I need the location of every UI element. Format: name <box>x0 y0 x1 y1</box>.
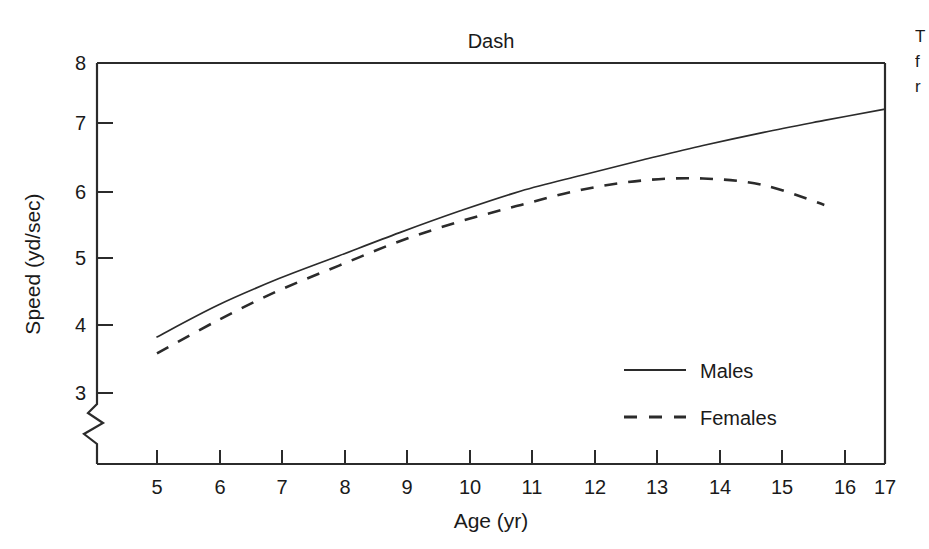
x-tick-label-10: 10 <box>459 476 481 498</box>
x-tick-label-6: 6 <box>214 476 225 498</box>
series-line-males <box>157 109 885 337</box>
legend-label-males: Males <box>700 360 753 382</box>
y-tick-marks <box>97 123 113 393</box>
x-tick-label-17: 17 <box>874 476 896 498</box>
y-axis-title: Speed (yd/sec) <box>21 193 44 334</box>
chart-title: Dash <box>468 30 515 52</box>
x-tick-label-5: 5 <box>151 476 162 498</box>
x-tick-label-11: 11 <box>522 476 543 498</box>
x-tick-label-14: 14 <box>709 476 731 498</box>
edge-caption-fragment: T f r <box>915 24 929 99</box>
figure-container: 8 7 6 5 4 3 5 6 7 8 9 <box>0 0 929 549</box>
x-tick-marks <box>157 450 845 464</box>
y-tick-label-8: 8 <box>75 52 86 74</box>
y-tick-labels: 8 7 6 5 4 3 <box>75 52 86 404</box>
x-tick-label-8: 8 <box>339 476 350 498</box>
y-tick-label-7: 7 <box>75 112 86 134</box>
y-tick-label-6: 6 <box>75 181 86 203</box>
y-tick-label-4: 4 <box>75 314 86 336</box>
x-tick-labels: 5 6 7 8 9 10 11 12 13 14 15 16 17 <box>151 476 896 498</box>
y-tick-label-5: 5 <box>75 247 86 269</box>
edge-caption-line-1: T <box>915 24 929 49</box>
x-tick-label-12: 12 <box>584 476 606 498</box>
legend-label-females: Females <box>700 407 777 429</box>
x-tick-label-13: 13 <box>646 476 668 498</box>
plot-frame <box>84 63 885 464</box>
x-tick-label-9: 9 <box>401 476 412 498</box>
x-axis-title: Age (yr) <box>454 509 529 532</box>
legend: Males Females <box>624 360 777 429</box>
dash-line-chart: 8 7 6 5 4 3 5 6 7 8 9 <box>0 0 929 549</box>
y-tick-label-3: 3 <box>75 382 86 404</box>
x-tick-label-15: 15 <box>771 476 793 498</box>
x-tick-label-16: 16 <box>834 476 856 498</box>
series-line-females <box>157 178 824 353</box>
edge-caption-line-3: r <box>915 74 929 99</box>
edge-caption-line-2: f <box>915 49 929 74</box>
x-tick-label-7: 7 <box>276 476 287 498</box>
